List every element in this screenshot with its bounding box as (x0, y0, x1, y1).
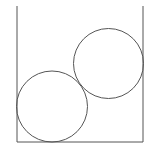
open-container (17, 6, 143, 142)
lower-circle (17, 71, 88, 142)
diagram-canvas (0, 0, 150, 146)
upper-circle (74, 29, 144, 99)
